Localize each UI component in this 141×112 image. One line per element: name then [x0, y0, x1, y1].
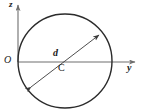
center-label: C [58, 63, 65, 73]
origin-label: O [4, 55, 11, 65]
diameter-line [31, 35, 99, 87]
diameter-label: d [53, 48, 58, 58]
y-axis-label: y [127, 63, 131, 73]
geometry-figure: z y O d C [0, 0, 141, 112]
z-axis-label: z [9, 0, 13, 9]
figure-canvas [0, 0, 141, 112]
